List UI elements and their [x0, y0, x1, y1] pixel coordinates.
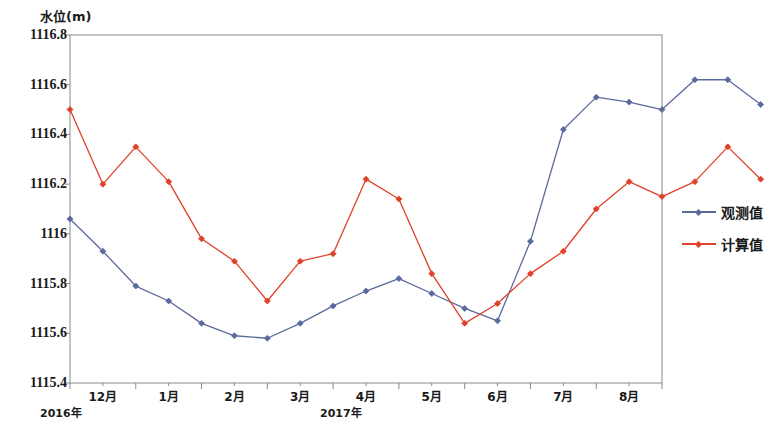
- x-tick-label: 6月: [487, 387, 507, 404]
- y-tick-label: 1116.2: [30, 176, 67, 192]
- legend-item-computed[interactable]: 计算值: [682, 228, 773, 260]
- x-tick-label: 8月: [619, 387, 639, 404]
- x-tick-label: 5月: [422, 387, 442, 404]
- legend-item-observed[interactable]: 观测值: [682, 196, 773, 228]
- y-tick-label: 1115.4: [30, 375, 67, 391]
- series-observed: [67, 77, 764, 342]
- x-tick-label: 7月: [553, 387, 573, 404]
- y-tick-label: 1116.8: [30, 27, 67, 43]
- y-tick-label: 1116.4: [30, 126, 67, 142]
- y-tick-label: 1115.6: [30, 325, 67, 341]
- y-tick-label: 1116: [41, 226, 67, 242]
- y-tick-label: 1115.8: [30, 276, 67, 292]
- series-layer: [67, 77, 764, 342]
- legend-label-observed: 观测值: [721, 202, 763, 222]
- series-computed: [67, 107, 764, 327]
- legend-swatch-observed: [682, 206, 716, 218]
- x-tick-label: 4月: [356, 387, 376, 404]
- legend-swatch-computed: [682, 238, 716, 250]
- plot-area: [0, 0, 773, 422]
- chart-legend: 观测值 计算值: [682, 196, 773, 260]
- x-tick-label: 2月: [224, 387, 244, 404]
- plot-frame: [70, 35, 662, 383]
- water-level-line-chart: 水位(m) 1116.81116.61116.41116.211161115.8…: [0, 0, 773, 422]
- diamond-marker-icon: [695, 241, 702, 248]
- legend-label-computed: 计算值: [721, 234, 763, 254]
- x-tick-label: 3月: [290, 387, 310, 404]
- y-axis-title: 水位(m): [40, 6, 91, 25]
- x-tick-label: 12月: [89, 387, 118, 404]
- year-annotation: 2017年: [320, 404, 362, 420]
- y-tick-label: 1116.6: [30, 77, 67, 93]
- year-annotation: 2016年: [40, 404, 82, 420]
- x-tick-label: 1月: [158, 387, 178, 404]
- diamond-marker-icon: [695, 209, 702, 216]
